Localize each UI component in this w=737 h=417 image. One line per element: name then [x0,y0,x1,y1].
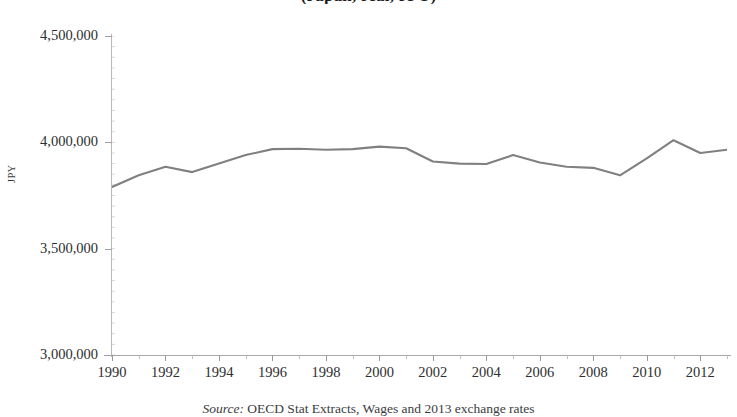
plot-area [112,36,727,355]
x-axis-tick-minor [139,355,140,359]
x-axis-tick-label: 2008 [563,364,623,381]
x-axis-tick-label: 2006 [510,364,570,381]
x-axis-tick-minor [513,355,514,359]
x-axis-tick-minor [674,355,675,359]
x-axis-tick-minor [192,355,193,359]
x-axis-tick-major [272,355,273,361]
x-axis-tick-major [433,355,434,361]
source-caption: Source: OECD Stat Extracts, Wages and 20… [0,401,737,417]
x-axis-tick-label: 1998 [296,364,356,381]
source-label: Source: [202,401,243,416]
x-axis-tick-label: 1990 [82,364,142,381]
x-axis-tick-major [379,355,380,361]
minor-gridlines [112,36,115,355]
x-axis-tick-label: 1994 [189,364,249,381]
x-axis-tick-label: 2012 [670,364,730,381]
x-axis-tick-major [219,355,220,361]
x-axis-tick-minor [406,355,407,359]
x-axis-tick-label: 2004 [456,364,516,381]
x-axis-tick-major [165,355,166,361]
x-axis-tick-minor [567,355,568,359]
x-axis-tick-major [540,355,541,361]
x-axis-tick-major [486,355,487,361]
x-axis-tick-major [326,355,327,361]
x-axis-tick-minor [727,355,728,359]
source-text: OECD Stat Extracts, Wages and 2013 excha… [247,401,534,416]
x-axis-tick-minor [460,355,461,359]
x-axis-tick-minor [353,355,354,359]
data-line-svg [112,36,727,355]
x-axis-tick-minor [299,355,300,359]
x-axis-tick-major [700,355,701,361]
x-axis-tick-label: 2010 [617,364,677,381]
x-axis-tick-minor [246,355,247,359]
x-axis-tick-major [593,355,594,361]
x-axis-tick-minor [620,355,621,359]
x-axis-tick-label: 2000 [349,364,409,381]
x-axis-tick-label: 1996 [242,364,302,381]
x-axis-tick-major [112,355,113,361]
x-axis-tick-label: 1992 [135,364,195,381]
data-series-line [112,140,727,187]
x-axis-tick-label: 2002 [403,364,463,381]
x-axis-tick-major [647,355,648,361]
